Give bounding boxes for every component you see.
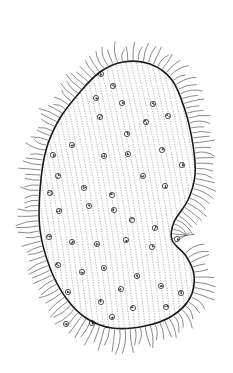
cilium xyxy=(126,47,128,61)
cilium xyxy=(22,241,41,246)
granule xyxy=(125,151,130,156)
granule xyxy=(63,321,68,326)
cilium xyxy=(186,106,200,108)
cilium xyxy=(98,328,104,351)
cilium xyxy=(172,234,186,235)
granule xyxy=(50,152,55,157)
cilium xyxy=(182,212,197,225)
cilium xyxy=(138,47,142,61)
cilium xyxy=(115,330,120,355)
granule xyxy=(94,241,99,246)
striation-line xyxy=(0,55,37,335)
cilium xyxy=(194,189,214,199)
cilium xyxy=(69,316,82,333)
cilium xyxy=(173,229,186,235)
cilium xyxy=(170,66,189,76)
cilium xyxy=(149,46,157,62)
granule xyxy=(86,203,91,208)
cilium xyxy=(160,323,164,340)
cilium xyxy=(174,224,186,234)
striation-line xyxy=(0,55,16,335)
granule xyxy=(174,236,179,241)
cilium xyxy=(193,136,210,138)
cilium xyxy=(186,244,205,253)
cilium xyxy=(188,251,208,257)
cilium xyxy=(16,226,38,228)
granule xyxy=(118,286,123,291)
striation-line xyxy=(0,55,21,335)
illustration-canvas xyxy=(0,0,233,373)
cilium xyxy=(196,179,215,183)
granule xyxy=(150,101,155,106)
cilium xyxy=(185,207,202,220)
cilium xyxy=(25,174,40,175)
striation-line xyxy=(0,55,6,335)
granule xyxy=(111,207,116,212)
granule xyxy=(162,183,167,188)
granule xyxy=(124,131,129,136)
ciliate-drawing xyxy=(0,0,233,373)
cilium xyxy=(26,158,42,160)
cilium xyxy=(139,328,142,344)
cilium xyxy=(182,95,198,98)
cilium xyxy=(27,246,42,252)
cilium xyxy=(39,109,59,118)
cilium xyxy=(187,110,203,113)
cilium xyxy=(37,130,50,136)
cilium xyxy=(25,205,38,208)
cilium xyxy=(20,187,39,191)
cilium xyxy=(39,289,59,298)
cilium xyxy=(195,288,215,293)
cilium xyxy=(81,322,91,337)
cilium xyxy=(191,127,204,128)
cilium xyxy=(167,60,181,72)
cilium xyxy=(193,264,205,267)
striation-line xyxy=(0,55,26,335)
cilium xyxy=(53,104,64,108)
cilium xyxy=(191,255,209,263)
granule xyxy=(69,142,74,147)
striation-line xyxy=(0,55,11,335)
cilium xyxy=(34,139,46,145)
cilium xyxy=(30,154,43,155)
granule xyxy=(158,283,163,288)
cilium xyxy=(194,140,215,143)
cilium xyxy=(23,161,42,165)
granule xyxy=(110,83,115,88)
granule xyxy=(98,299,103,304)
cilium xyxy=(184,99,204,104)
cilium xyxy=(192,194,210,204)
granule xyxy=(165,113,170,118)
cilium xyxy=(67,81,78,93)
cilium xyxy=(122,50,125,61)
granule xyxy=(119,100,124,105)
granule xyxy=(93,95,98,100)
granule xyxy=(143,119,148,124)
granule xyxy=(130,305,135,310)
cilium xyxy=(195,277,214,278)
cilium xyxy=(39,280,54,290)
cilium xyxy=(49,297,64,311)
cilium xyxy=(25,200,39,203)
granule xyxy=(79,269,84,274)
cilium xyxy=(186,306,193,319)
cilium xyxy=(29,266,48,275)
cilium xyxy=(75,319,86,338)
cilium xyxy=(112,330,115,352)
granule xyxy=(123,237,128,242)
cilium xyxy=(16,221,38,226)
cilium xyxy=(84,324,95,345)
granule xyxy=(178,290,183,295)
granule xyxy=(97,114,102,119)
cilium xyxy=(196,158,214,159)
cilium xyxy=(188,203,207,217)
cilium xyxy=(179,85,197,90)
granule xyxy=(56,208,61,213)
granule xyxy=(55,173,60,178)
cilium xyxy=(24,185,39,187)
cilium xyxy=(18,231,39,233)
cilium xyxy=(71,73,85,85)
granule xyxy=(65,289,70,294)
cilium xyxy=(25,195,39,198)
granule xyxy=(109,314,114,319)
